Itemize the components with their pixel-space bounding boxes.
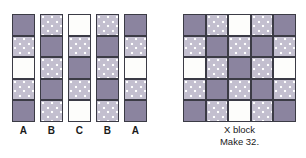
strip-cells — [68, 14, 91, 122]
patch-dot — [12, 79, 35, 101]
patch-solid — [124, 100, 147, 122]
block-patch-solid — [251, 36, 274, 58]
strip-label: C — [68, 124, 91, 138]
x-block-grid — [183, 14, 296, 122]
x-block-title: X block — [171, 124, 306, 136]
strip-cells — [40, 14, 63, 122]
block-patch-solid — [228, 57, 251, 79]
patch-white — [68, 14, 91, 36]
patch-solid — [96, 36, 119, 58]
x-block-make-count: Make 32. — [171, 136, 306, 148]
block-patch-white — [228, 100, 251, 122]
block-patch-white — [228, 14, 251, 36]
block-patch-white — [183, 57, 206, 79]
patch-solid — [40, 79, 63, 101]
patch-white — [12, 57, 35, 79]
patch-solid — [96, 79, 119, 101]
block-patch-dot — [251, 100, 274, 122]
patch-dot — [40, 100, 63, 122]
strip-c-2: C — [68, 14, 91, 122]
strip-cells — [124, 14, 147, 122]
patch-dot — [96, 100, 119, 122]
block-patch-dot — [273, 79, 296, 101]
block-patch-white — [273, 57, 296, 79]
strip-label: A — [124, 124, 147, 138]
block-patch-dot — [251, 14, 274, 36]
patch-solid — [68, 57, 91, 79]
patch-dot — [68, 36, 91, 58]
patch-dot — [124, 79, 147, 101]
patch-dot — [68, 79, 91, 101]
patch-dot — [96, 14, 119, 36]
patch-solid — [12, 14, 35, 36]
strip-b-1: B — [40, 14, 63, 122]
block-patch-solid — [206, 79, 229, 101]
block-patch-solid — [183, 14, 206, 36]
block-patch-dot — [273, 36, 296, 58]
block-patch-dot — [206, 14, 229, 36]
block-patch-solid — [183, 100, 206, 122]
patch-dot — [40, 14, 63, 36]
strip-a-4: A — [124, 14, 147, 122]
block-patch-solid — [273, 14, 296, 36]
x-block-caption: X block Make 32. — [171, 124, 306, 148]
patch-white — [68, 100, 91, 122]
strip-cells — [96, 14, 119, 122]
block-patch-dot — [251, 57, 274, 79]
block-patch-solid — [251, 79, 274, 101]
patch-dot — [12, 36, 35, 58]
strip-label: A — [12, 124, 35, 138]
block-patch-dot — [183, 79, 206, 101]
block-patch-dot — [228, 79, 251, 101]
block-patch-dot — [206, 100, 229, 122]
block-patch-dot — [183, 36, 206, 58]
block-patch-solid — [206, 36, 229, 58]
patch-white — [124, 57, 147, 79]
patch-solid — [40, 36, 63, 58]
strip-a-0: A — [12, 14, 35, 122]
patch-solid — [124, 14, 147, 36]
block-patch-dot — [206, 57, 229, 79]
patch-dot — [124, 36, 147, 58]
strip-b-3: B — [96, 14, 119, 122]
x-block-group: X block Make 32. — [183, 14, 296, 122]
patch-solid — [12, 100, 35, 122]
quilt-pattern-figure: ABCBA X block Make 32. — [0, 0, 306, 158]
strip-label: B — [40, 124, 63, 138]
block-patch-solid — [273, 100, 296, 122]
patch-dot — [40, 57, 63, 79]
strip-cells — [12, 14, 35, 122]
patch-dot — [96, 57, 119, 79]
strip-label: B — [96, 124, 119, 138]
block-patch-dot — [228, 36, 251, 58]
